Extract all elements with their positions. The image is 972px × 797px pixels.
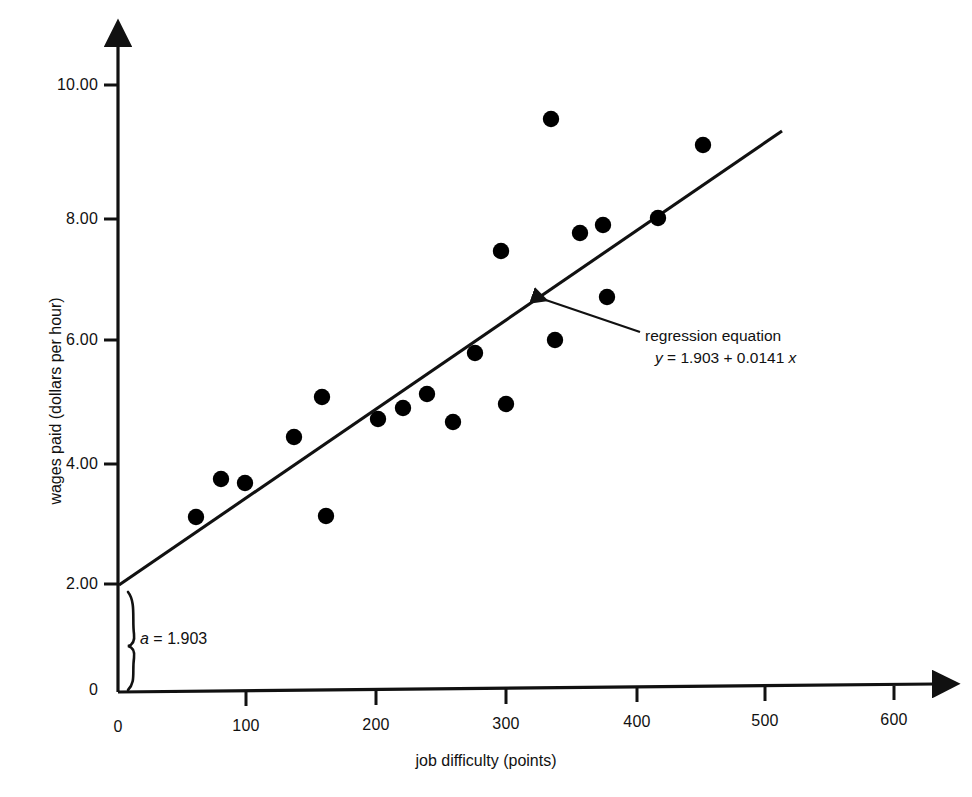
data-point [498, 396, 514, 412]
data-point [237, 475, 253, 491]
data-point [419, 386, 435, 402]
data-point [286, 429, 302, 445]
x-tick-label-500: 500 [751, 712, 778, 730]
x-tick-label-300: 300 [492, 715, 519, 733]
regression-equation-y: y [655, 349, 663, 366]
scatter-plot-figure: 10.00 8.00 6.00 4.00 2.00 0 0 100 200 30… [0, 0, 972, 797]
x-tick-label-100: 100 [232, 717, 259, 735]
plot-canvas [0, 0, 972, 797]
data-point [493, 243, 509, 259]
x-axis-title: job difficulty (points) [0, 752, 972, 770]
data-point [188, 509, 204, 525]
y-axis-title: wages paid (dollars per hour) [47, 251, 65, 551]
regression-equation-x: x [789, 349, 797, 366]
data-point [547, 332, 563, 348]
x-tick-label-400: 400 [623, 713, 650, 731]
data-point [695, 137, 711, 153]
data-point [318, 508, 334, 524]
y-tick-label-2: 2.00 [10, 575, 98, 593]
y-axis-ticks [104, 85, 118, 584]
regression-annotation-leader [534, 296, 640, 332]
y-tick-label-0: 0 [10, 681, 98, 699]
data-point [572, 225, 588, 241]
data-point [445, 414, 461, 430]
intercept-symbol: a [140, 630, 149, 647]
regression-equation: y = 1.903 + 0.0141 x [645, 347, 796, 369]
data-points [188, 111, 711, 525]
regression-equation-body: = 1.903 + 0.0141 [663, 349, 789, 366]
data-point [650, 210, 666, 226]
data-point [467, 345, 483, 361]
x-tick-label-600: 600 [880, 711, 907, 729]
data-point [595, 217, 611, 233]
regression-annotation-label: regression equation [645, 325, 796, 347]
y-tick-label-10: 10.00 [10, 76, 98, 94]
intercept-annotation: a = 1.903 [140, 630, 207, 648]
x-tick-label-200: 200 [362, 716, 389, 734]
x-tick-label-0: 0 [113, 718, 122, 736]
intercept-value: = 1.903 [149, 630, 207, 647]
intercept-brace [128, 592, 134, 690]
data-point [395, 400, 411, 416]
data-point [599, 289, 615, 305]
x-axis-line [118, 684, 935, 692]
regression-annotation: regression equation y = 1.903 + 0.0141 x [645, 325, 796, 369]
data-point [314, 389, 330, 405]
data-point [213, 471, 229, 487]
data-point [543, 111, 559, 127]
y-tick-label-8: 8.00 [10, 210, 98, 228]
data-point [370, 411, 386, 427]
